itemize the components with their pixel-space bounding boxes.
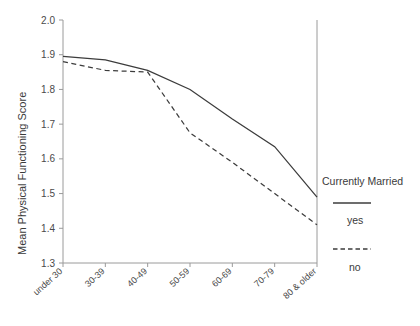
x-category-label-group: under 3030-3940-4950-5960-6970-7980 & ol… <box>31 266 318 301</box>
y-axis-title: Mean Physical Functioning Score <box>16 92 28 255</box>
legend-label-no: no <box>349 261 361 273</box>
y-tick-label: 2.0 <box>41 15 55 26</box>
line-chart: Mean Physical Functioning Score 2.01.91.… <box>0 0 420 326</box>
y-tick-label: 1.4 <box>41 223 55 234</box>
x-category-label: 80 & older <box>281 266 318 301</box>
x-category-label: 40-49 <box>125 266 149 289</box>
y-tick-group: 2.01.91.81.71.61.51.41.3 <box>41 15 63 269</box>
x-category-label: under 30 <box>31 266 64 297</box>
y-tick-label: 1.6 <box>41 153 55 164</box>
chart-container: Mean Physical Functioning Score 2.01.91.… <box>0 0 420 326</box>
y-tick-label: 1.8 <box>41 84 55 95</box>
y-tick-label: 1.5 <box>41 188 55 199</box>
y-tick-label: 1.9 <box>41 49 55 60</box>
y-tick-label: 1.3 <box>41 258 55 269</box>
series-line-no <box>63 62 317 225</box>
legend: Currently Married yes no <box>322 175 403 273</box>
series-line-yes <box>63 56 317 197</box>
x-category-label: 30-39 <box>83 266 107 289</box>
x-category-label: 50-59 <box>168 266 192 289</box>
y-tick-label: 1.7 <box>41 119 55 130</box>
series-group <box>63 56 317 224</box>
x-tick-group <box>63 263 317 267</box>
legend-label-yes: yes <box>347 214 363 226</box>
x-category-label: 60-69 <box>210 266 234 289</box>
legend-title: Currently Married <box>322 175 403 187</box>
x-category-label: 70-79 <box>252 266 276 289</box>
